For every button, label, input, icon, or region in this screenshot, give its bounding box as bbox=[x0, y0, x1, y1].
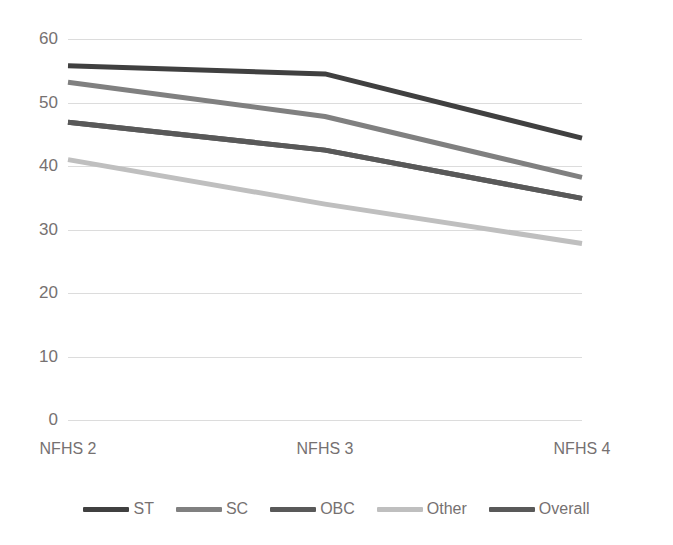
legend-item-sc[interactable]: SC bbox=[176, 500, 248, 518]
legend-item-st[interactable]: ST bbox=[83, 500, 153, 518]
legend-label: OBC bbox=[320, 500, 355, 518]
legend-item-obc[interactable]: OBC bbox=[270, 500, 355, 518]
line-chart: 6050403020100 NFHS 2NFHS 3NFHS 4 STSCOBC… bbox=[0, 0, 673, 545]
y-axis-tick-label: 30 bbox=[14, 221, 58, 238]
legend-swatch-icon bbox=[83, 507, 129, 512]
series-line-other bbox=[68, 160, 582, 244]
x-axis-tick-label: NFHS 3 bbox=[297, 440, 354, 458]
legend-label: Overall bbox=[539, 500, 590, 518]
legend-label: ST bbox=[133, 500, 153, 518]
y-axis: 6050403020100 bbox=[10, 39, 58, 420]
series-line-st bbox=[68, 66, 582, 138]
gridline bbox=[68, 420, 582, 421]
x-axis-tick-label: NFHS 2 bbox=[40, 440, 97, 458]
x-axis: NFHS 2NFHS 3NFHS 4 bbox=[68, 440, 582, 466]
y-axis-tick-label: 0 bbox=[14, 411, 58, 428]
legend-swatch-icon bbox=[489, 507, 535, 512]
legend-swatch-icon bbox=[377, 507, 423, 512]
legend-item-other[interactable]: Other bbox=[377, 500, 467, 518]
y-axis-tick-label: 50 bbox=[14, 94, 58, 111]
legend-swatch-icon bbox=[270, 507, 316, 512]
x-axis-tick-label: NFHS 4 bbox=[554, 440, 611, 458]
legend-label: SC bbox=[226, 500, 248, 518]
legend-swatch-icon bbox=[176, 507, 222, 512]
y-axis-tick-label: 40 bbox=[14, 157, 58, 174]
chart-legend: STSCOBCOtherOverall bbox=[0, 500, 673, 518]
legend-label: Other bbox=[427, 500, 467, 518]
plot-area bbox=[68, 39, 582, 420]
y-axis-tick-label: 60 bbox=[14, 30, 58, 47]
legend-item-overall[interactable]: Overall bbox=[489, 500, 590, 518]
series-layer bbox=[68, 39, 582, 420]
y-axis-tick-label: 20 bbox=[14, 284, 58, 301]
y-axis-tick-label: 10 bbox=[14, 348, 58, 365]
